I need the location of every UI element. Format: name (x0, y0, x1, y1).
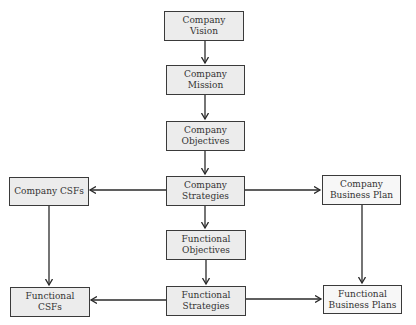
node-company-objectives: Company Objectives (166, 121, 245, 151)
connector-arrows (0, 0, 416, 325)
node-company-strategies: Company Strategies (166, 176, 245, 206)
node-functional-business-plans: Functional Business Plans (323, 285, 402, 314)
node-functional-strategies: Functional Strategies (166, 286, 246, 316)
strategy-flow-diagram: Company Vision Company Mission Company O… (0, 0, 416, 325)
node-functional-objectives: Functional Objectives (166, 230, 246, 260)
node-company-mission: Company Mission (166, 65, 245, 95)
node-company-vision: Company Vision (164, 11, 244, 41)
node-company-business-plan: Company Business Plan (322, 175, 401, 205)
node-functional-csfs: Functional CSFs (10, 287, 90, 317)
node-company-csfs: Company CSFs (9, 177, 89, 206)
